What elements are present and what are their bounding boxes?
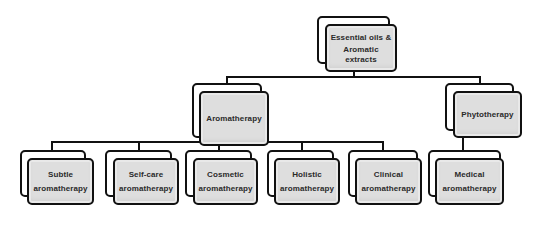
node-box: Medical aromatherapy (435, 158, 504, 205)
node-label-line: aromatherapy (280, 182, 334, 196)
node-label-line: extracts (345, 55, 377, 65)
node-label-line: aromatherapy (119, 182, 173, 196)
node-box: Clinical aromatherapy (355, 158, 422, 205)
node-box: Phytotherapy (453, 91, 522, 138)
node-box: Holistic aromatherapy (274, 158, 340, 205)
node-label-line: Self-care (129, 168, 164, 182)
node-box: Essential oils & Aromatic extracts (325, 24, 397, 72)
level1-bus-line (226, 76, 481, 78)
node-label-line: aromatherapy (198, 182, 252, 196)
node-box: Cosmetic aromatherapy (193, 158, 258, 205)
node-label-line: aromatherapy (33, 182, 87, 196)
node-box: Aromatherapy (199, 91, 269, 146)
node-label-line: aromatherapy (361, 182, 415, 196)
phytotherapy-stem-line (462, 136, 464, 151)
node-label-line: Medical (454, 168, 484, 182)
node-label-line: Cosmetic (207, 168, 244, 182)
node-box: Subtle aromatherapy (27, 158, 94, 205)
node-label-line: Holistic (292, 168, 322, 182)
node-label-line: Subtle (48, 168, 73, 182)
node-label-line: Phytotherapy (461, 108, 513, 122)
node-label-line: Essential oils & (331, 31, 392, 45)
node-label-line: Aromatherapy (206, 112, 261, 126)
node-label-line: Clinical (374, 168, 403, 182)
node-label-line: aromatherapy (442, 182, 496, 196)
node-box: Self-care aromatherapy (113, 158, 179, 205)
node-label-line: Aromatic (343, 45, 378, 55)
